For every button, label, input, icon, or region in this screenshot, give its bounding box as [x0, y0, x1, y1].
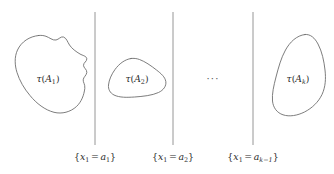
hyperplane-labels-group: {x1=a1} {x1=a2} {x1=ak−1}: [74, 151, 279, 164]
hpk-var-sub: 1: [239, 156, 243, 164]
region-label-1: τ(A1): [37, 73, 60, 86]
hp1-var-sub: 1: [85, 156, 89, 164]
region-label-k: τ(Ak): [287, 73, 310, 86]
hp2-var-sub: 1: [163, 156, 167, 164]
region-label-2: τ(A2): [126, 73, 149, 86]
hp2-close-brace: }: [188, 151, 194, 162]
region-1-close-paren: ): [56, 73, 60, 84]
figure-canvas: τ(A1) τ(A2) τ(Ak) ··· {x1=a1} {x1=a2} {x…: [0, 0, 334, 174]
region-k-close-paren: ): [306, 73, 310, 84]
region-2-close-paren: ): [145, 73, 149, 84]
region-blobs-group: [15, 34, 325, 115]
hp1-close-brace: }: [110, 151, 116, 162]
hpk-equals: =: [244, 151, 252, 162]
hyperplane-lines-group: [95, 12, 253, 145]
diagram-svg: τ(A1) τ(A2) τ(Ak) ··· {x1=a1} {x1=a2} {x…: [0, 0, 334, 174]
hp2-equals: =: [169, 151, 177, 162]
hyperplane-label-2: {x1=a2}: [152, 151, 194, 164]
hpk-val-sub: k−1: [259, 156, 272, 164]
hyperplane-label-1: {x1=a1}: [74, 151, 116, 164]
hyperplane-label-k-1: {x1=ak−1}: [227, 151, 278, 164]
hpk-close-brace: }: [273, 151, 279, 162]
hp1-equals: =: [91, 151, 99, 162]
ellipsis-separator: ···: [207, 73, 220, 84]
